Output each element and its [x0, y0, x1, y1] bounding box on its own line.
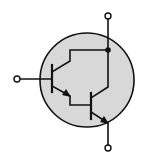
junction-dot	[105, 47, 111, 53]
emitter-terminal[interactable]	[105, 145, 111, 151]
collector-terminal[interactable]	[105, 13, 111, 19]
darlington-transistor-diagram	[0, 0, 149, 164]
transistor-envelope	[40, 33, 134, 127]
base-terminal[interactable]	[14, 76, 20, 82]
